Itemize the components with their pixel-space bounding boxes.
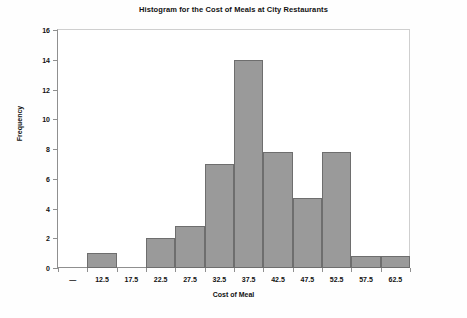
x-tick-mark [410, 268, 411, 272]
x-tick-mark [381, 268, 382, 272]
x-tick-mark [87, 268, 88, 272]
y-tick-label: 10 [16, 116, 50, 123]
x-tick-mark [322, 268, 323, 272]
histogram-bar [146, 238, 175, 268]
y-tick-label: 16 [16, 27, 50, 34]
x-tick-mark [293, 268, 294, 272]
y-tick-label: 12 [16, 86, 50, 93]
x-tick-mark [263, 268, 264, 272]
histogram-bar [263, 152, 292, 268]
x-tick-mark [205, 268, 206, 272]
chart-title: Histogram for the Cost of Meals at City … [0, 5, 467, 14]
x-tick-mark [351, 268, 352, 272]
y-tick-label: 6 [16, 175, 50, 182]
x-tick-mark [117, 268, 118, 272]
histogram-bar [351, 256, 380, 268]
y-axis-title: Frequency [16, 79, 23, 169]
x-tick-label: 62.5 [375, 276, 415, 283]
histogram-bar [322, 152, 351, 268]
histogram-bar [293, 198, 322, 268]
x-tick-mark [175, 268, 176, 272]
x-tick-mark [58, 268, 59, 272]
histogram-bar [87, 253, 116, 268]
x-tick-mark [146, 268, 147, 272]
histogram-bar [381, 256, 410, 268]
x-tick-mark [234, 268, 235, 272]
histogram-bar [234, 60, 263, 268]
y-tick-label: 14 [16, 56, 50, 63]
y-tick-label: 2 [16, 235, 50, 242]
histogram-bar [205, 164, 234, 268]
bars-layer [58, 30, 410, 268]
histogram-bar [175, 226, 204, 268]
y-tick-label: 0 [16, 265, 50, 272]
histogram-chart: Histogram for the Cost of Meals at City … [0, 0, 467, 318]
y-tick-label: 4 [16, 205, 50, 212]
x-axis-title: Cost of Meal [0, 291, 467, 298]
y-tick-label: 8 [16, 146, 50, 153]
